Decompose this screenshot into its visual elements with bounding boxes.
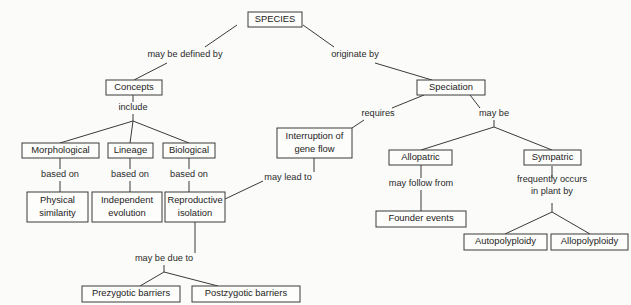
link-label-may_be_due_to: may be due to — [135, 253, 193, 263]
link-label-frequently_occurs: frequently occursin plant by — [517, 174, 587, 196]
link-label-based_on_1: based on — [41, 169, 79, 179]
link-label-text-include: include — [118, 102, 147, 112]
link-label-based_on_2: based on — [111, 169, 149, 179]
node-species[interactable]: SPECIES — [248, 12, 302, 27]
link-label-text-may_be_defined_by: may be defined by — [147, 49, 222, 59]
connector-junction4-to-allopolyploidy — [552, 212, 590, 234]
connector-junction-to-lineage — [130, 121, 133, 143]
node-label-physical_similarity: similarity — [39, 207, 76, 218]
node-label-autopolyploidy: Autopolyploidy — [475, 235, 536, 246]
node-label-allopolyploidy: Allopolyploidy — [561, 235, 619, 246]
link-label-include: include — [118, 102, 147, 112]
node-label-biological: Biological — [169, 144, 209, 155]
link-label-text-may_lead_to: may lead to — [264, 172, 312, 182]
link-label-requires: requires — [361, 108, 395, 118]
node-label-postzygotic: Postzygotic barriers — [205, 287, 288, 298]
link-label-text-originate_by: originate by — [331, 49, 379, 59]
node-label-morphological: Morphological — [31, 144, 89, 155]
node-biological[interactable]: Biological — [163, 143, 215, 158]
node-label-interruption: Interruption of — [286, 130, 344, 141]
connector-junction3-to-sympatric — [494, 127, 552, 150]
link-label-text-may_be: may be — [479, 108, 509, 118]
connector-may-lead-to-to-reproductive — [225, 181, 263, 199]
node-label-interruption: gene flow — [294, 143, 334, 154]
link-label-based_on_3: based on — [170, 169, 208, 179]
node-label-concepts: Concepts — [114, 81, 154, 92]
node-label-speciation: Speciation — [429, 81, 473, 92]
node-founder_events[interactable]: Founder events — [376, 211, 466, 227]
node-label-lineage: Lineage — [114, 144, 147, 155]
connector-junction2-to-postzygotic — [164, 272, 218, 286]
link-label-may_lead_to: may lead to — [264, 172, 312, 182]
link-label-may_be_defined_by: may be defined by — [147, 49, 222, 59]
node-label-reproductive_isol: Reproductive — [167, 194, 222, 205]
node-label-independent_evol: evolution — [108, 207, 146, 218]
link-label-text-requires: requires — [361, 108, 395, 118]
link-label-text-based_on_1: based on — [41, 169, 79, 179]
node-independent_evol[interactable]: Independentevolution — [92, 192, 162, 222]
node-label-physical_similarity: Physical — [40, 194, 75, 205]
node-speciation[interactable]: Speciation — [417, 80, 485, 95]
node-label-prezygotic: Prezygotic barriers — [92, 287, 170, 298]
node-interruption[interactable]: Interruption ofgene flow — [277, 128, 352, 158]
connector-junction2-to-prezygotic — [140, 272, 164, 286]
connector-requires-to-interruption — [352, 120, 364, 128]
link-label-text-frequently_occurs: in plant by — [531, 186, 573, 196]
link-label-text-based_on_3: based on — [170, 169, 208, 179]
connector-junction3-to-allopatric — [421, 127, 494, 150]
node-label-independent_evol: Independent — [101, 194, 154, 205]
concept-map-svg: SPECIESConceptsSpeciationMorphologicalLi… — [0, 0, 631, 305]
link-label-text-based_on_2: based on — [111, 169, 149, 179]
connector-may-be-defined-by-to-concepts — [134, 63, 167, 80]
node-allopolyploidy[interactable]: Allopolyploidy — [551, 234, 628, 250]
node-physical_similarity[interactable]: Physicalsimilarity — [27, 192, 88, 222]
link-label-text-may_be_due_to: may be due to — [135, 253, 193, 263]
link-label-text-may_follow_from: may follow from — [389, 178, 454, 188]
node-label-species: SPECIES — [255, 13, 296, 24]
nodes-layer: SPECIESConceptsSpeciationMorphologicalLi… — [22, 12, 628, 302]
connector-originate-by-to-speciation — [375, 63, 432, 80]
node-lineage[interactable]: Lineage — [108, 143, 153, 158]
node-postzygotic[interactable]: Postzygotic barriers — [192, 286, 300, 302]
link-label-text-frequently_occurs: frequently occurs — [517, 174, 587, 184]
node-autopolyploidy[interactable]: Autopolyploidy — [464, 234, 547, 250]
link-label-may_be: may be — [479, 108, 509, 118]
node-morphological[interactable]: Morphological — [22, 143, 99, 158]
connector-junction-to-morphological — [60, 121, 133, 143]
concept-map-canvas: SPECIESConceptsSpeciationMorphologicalLi… — [0, 0, 631, 305]
connector-speciation-to-may-be — [470, 95, 480, 108]
node-sympatric[interactable]: Sympatric — [524, 150, 581, 165]
node-label-reproductive_isol: isolation — [178, 207, 212, 218]
node-label-founder_events: Founder events — [388, 212, 453, 223]
node-prezygotic[interactable]: Prezygotic barriers — [82, 286, 180, 302]
connector-species-to-may-be-defined-by — [205, 25, 237, 47]
connector-junction-to-biological — [133, 121, 189, 143]
node-label-allopatric: Allopatric — [401, 151, 440, 162]
connector-junction4-to-autopolyploidy — [505, 212, 552, 234]
link-label-originate_by: originate by — [331, 49, 379, 59]
node-label-sympatric: Sympatric — [532, 151, 574, 162]
node-reproductive_isol[interactable]: Reproductiveisolation — [165, 192, 225, 222]
connector-speciation-to-requires — [392, 95, 424, 108]
link-label-may_follow_from: may follow from — [389, 178, 454, 188]
connector-species-to-originate-by — [303, 25, 334, 47]
node-allopatric[interactable]: Allopatric — [389, 150, 452, 165]
node-concepts[interactable]: Concepts — [106, 80, 162, 95]
